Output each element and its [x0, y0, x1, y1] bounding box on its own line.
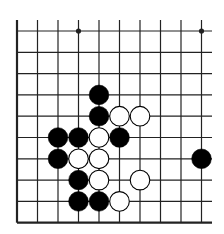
star-point [199, 28, 204, 33]
go-board [0, 0, 224, 234]
black-stone [192, 149, 212, 169]
white-stone [130, 106, 150, 126]
black-stone [48, 128, 68, 148]
black-stone [48, 149, 68, 169]
black-stone [89, 192, 109, 212]
black-stone [89, 106, 109, 126]
white-stone [89, 149, 109, 169]
black-stone [69, 128, 89, 148]
white-stone [110, 106, 130, 126]
black-stone [110, 128, 130, 148]
black-stone [69, 170, 89, 190]
white-stone [89, 128, 109, 148]
white-stone [69, 149, 89, 169]
stones [48, 85, 211, 211]
black-stone [89, 85, 109, 105]
white-stone [130, 170, 150, 190]
white-stone [110, 192, 130, 212]
star-point [76, 28, 81, 33]
white-stone [89, 170, 109, 190]
black-stone [69, 192, 89, 212]
